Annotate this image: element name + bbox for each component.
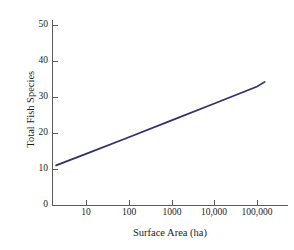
x-axis-title: Surface Area (ha) xyxy=(52,228,288,239)
y-tick-label-10: 10 xyxy=(22,164,48,174)
y-tick-0 xyxy=(53,205,58,206)
fish-species-area-chart: Total Fish Species 0 10 20 30 40 50 10 1… xyxy=(0,0,294,250)
x-tick-10 xyxy=(86,200,87,205)
y-tick-label-50: 50 xyxy=(22,20,48,30)
y-tick-40 xyxy=(53,61,58,62)
y-tick-20 xyxy=(53,133,58,134)
x-axis-line xyxy=(52,205,288,206)
y-tick-30 xyxy=(53,97,58,98)
x-tick-label-100000: 100,000 xyxy=(232,208,282,218)
x-tick-100000 xyxy=(257,200,258,205)
y-tick-label-40: 40 xyxy=(22,56,48,66)
y-tick-label-0: 0 xyxy=(22,200,48,210)
y-axis-line xyxy=(52,20,53,206)
y-tick-label-30: 30 xyxy=(22,92,48,102)
x-tick-100 xyxy=(129,200,130,205)
y-tick-label-20: 20 xyxy=(22,128,48,138)
x-tick-10000 xyxy=(214,200,215,205)
y-tick-50 xyxy=(53,25,58,26)
y-tick-10 xyxy=(53,169,58,170)
species-area-line xyxy=(56,82,265,166)
x-tick-1000 xyxy=(172,200,173,205)
